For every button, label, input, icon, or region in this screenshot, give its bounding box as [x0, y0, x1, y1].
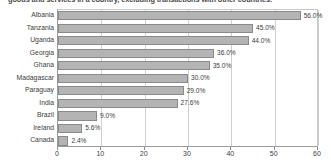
- y-tick-label-uganda: Uganda: [0, 34, 54, 47]
- bar-brazil[interactable]: [58, 111, 97, 120]
- x-tick-label-20: 20: [140, 150, 148, 157]
- bar-chart-figure: goods and services in a country, excludi…: [0, 0, 331, 165]
- x-tick-label-60: 60: [313, 150, 321, 157]
- bar-row: 9.0%: [58, 110, 317, 123]
- y-tick-label-ghana: Ghana: [0, 59, 54, 72]
- bar-value-label: 30.0%: [191, 72, 210, 84]
- bar-row: 45.0%: [58, 23, 317, 36]
- bar-india[interactable]: [58, 99, 178, 108]
- bar-value-label: 56.0%: [304, 10, 323, 22]
- y-tick-label-tanzania: Tanzania: [0, 22, 54, 35]
- bar-value-label: 36.0%: [217, 47, 236, 59]
- y-tick-label-india: India: [0, 97, 54, 110]
- y-tick-label-madagascar: Madagascar: [0, 72, 54, 85]
- y-tick-label-paraguay: Paraguay: [0, 84, 54, 97]
- bar-albania[interactable]: [58, 11, 301, 20]
- bar-value-label: 44.0%: [252, 35, 271, 47]
- x-tick-label-30: 30: [183, 150, 191, 157]
- bar-row: 36.0%: [58, 48, 317, 61]
- bar-row: 30.0%: [58, 73, 317, 86]
- y-tick-label-ireland: Ireland: [0, 122, 54, 135]
- bar-series: 56.0%45.0%44.0%36.0%35.0%30.0%29.0%27.6%…: [58, 10, 317, 146]
- plot-area: 56.0%45.0%44.0%36.0%35.0%30.0%29.0%27.6%…: [57, 9, 318, 147]
- y-axis-category-labels: AlbaniaTanzaniaUgandaGeorgiaGhanaMadagas…: [0, 9, 54, 147]
- bar-value-label: 9.0%: [100, 110, 115, 122]
- y-tick-label-georgia: Georgia: [0, 47, 54, 60]
- bar-row: 29.0%: [58, 85, 317, 98]
- bar-canada[interactable]: [58, 136, 68, 145]
- y-tick-label-canada: Canada: [0, 134, 54, 147]
- bar-row: 44.0%: [58, 35, 317, 48]
- bar-uganda[interactable]: [58, 36, 249, 45]
- bar-ireland[interactable]: [58, 124, 82, 133]
- bar-value-label: 45.0%: [256, 22, 275, 34]
- bar-georgia[interactable]: [58, 49, 214, 58]
- x-tick-label-40: 40: [226, 150, 234, 157]
- bar-value-label: 27.6%: [181, 97, 200, 109]
- y-tick-label-brazil: Brazil: [0, 109, 54, 122]
- bar-row: 27.6%: [58, 98, 317, 111]
- gridline-60: [318, 10, 319, 146]
- x-tick-label-10: 10: [96, 150, 104, 157]
- bar-value-label: 2.4%: [71, 135, 86, 147]
- bar-row: 35.0%: [58, 60, 317, 73]
- bar-madagascar[interactable]: [58, 74, 188, 83]
- bar-value-label: 35.0%: [213, 60, 232, 72]
- x-axis: 0102030405060: [57, 147, 318, 163]
- x-tick-label-50: 50: [270, 150, 278, 157]
- bar-paraguay[interactable]: [58, 86, 184, 95]
- x-tick-label-0: 0: [55, 150, 59, 157]
- bar-ghana[interactable]: [58, 61, 210, 70]
- bar-value-label: 29.0%: [187, 85, 206, 97]
- bar-row: 5.6%: [58, 123, 317, 136]
- chart-caption: goods and services in a country, excludi…: [8, 0, 326, 5]
- bar-tanzania[interactable]: [58, 24, 253, 33]
- bar-row: 56.0%: [58, 10, 317, 23]
- y-tick-label-albania: Albania: [0, 9, 54, 22]
- bar-value-label: 5.6%: [85, 122, 100, 134]
